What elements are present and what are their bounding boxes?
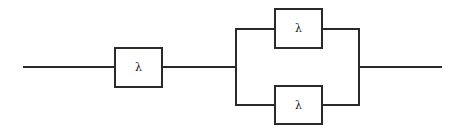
reliability-block-diagram: λ λ λ [0, 0, 461, 134]
parallel-top-block-label: λ [295, 22, 302, 35]
series-block: λ [115, 48, 162, 87]
series-block-label: λ [135, 61, 142, 74]
parallel-bottom-block: λ [275, 86, 322, 124]
parallel-bottom-block-label: λ [295, 99, 302, 112]
parallel-top-block: λ [275, 9, 322, 48]
